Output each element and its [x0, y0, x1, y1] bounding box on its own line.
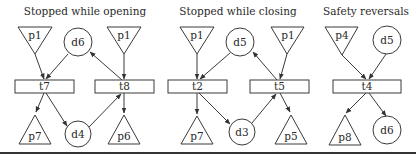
svg-text:d5: d5 [380, 34, 393, 46]
svg-text:p4: p4 [335, 29, 349, 41]
place-d5: d5 [226, 28, 254, 56]
place-p8: p8 [329, 115, 361, 145]
arc-t7-d4 [46, 93, 67, 126]
arc-t5-d5 [253, 52, 277, 80]
svg-text:p5: p5 [284, 130, 297, 142]
place-d3: d3 [229, 119, 255, 145]
place-d4: d4 [65, 121, 91, 147]
svg-text:p1: p1 [190, 29, 203, 41]
svg-text:p6: p6 [117, 130, 131, 142]
transition-t5: t5 [250, 80, 309, 93]
transition-t2: t2 [168, 80, 227, 93]
svg-text:d3: d3 [235, 126, 248, 138]
arc-t4-d6 [369, 93, 386, 116]
svg-text:p1: p1 [281, 29, 294, 41]
panel-title: Stopped while closing [179, 5, 297, 17]
svg-text:t4: t4 [362, 80, 373, 92]
arc-p1-t5 [280, 54, 287, 79]
svg-text:p7: p7 [190, 130, 203, 142]
place-p6: p6 [108, 115, 140, 144]
place-d6: d6 [373, 116, 401, 144]
arc-t2-d3 [199, 93, 230, 124]
arc-t5-p5 [280, 93, 290, 112]
arc-d5-t4 [369, 54, 386, 79]
place-p7: p7 [181, 116, 213, 144]
svg-text:d6: d6 [71, 36, 85, 48]
arc-d5-t2 [200, 53, 230, 79]
svg-text:p8: p8 [338, 131, 351, 143]
place-d6: d6 [64, 28, 92, 56]
svg-text:d5: d5 [233, 36, 246, 48]
svg-text:t5: t5 [274, 80, 285, 92]
place-p1: p1 [180, 27, 214, 54]
svg-text:p7: p7 [28, 130, 41, 142]
place-p1: p1 [18, 27, 52, 54]
transition-t7: t7 [15, 80, 74, 93]
place-p7: p7 [19, 115, 51, 144]
arc-t4-p8 [346, 93, 366, 113]
arc-p1-t7 [35, 54, 44, 79]
svg-text:d6: d6 [380, 124, 394, 136]
panel-title: Safety reversals [323, 5, 409, 17]
svg-text:t8: t8 [119, 80, 130, 92]
svg-text:t2: t2 [192, 80, 203, 92]
transition-t4: t4 [333, 80, 401, 93]
arc-d4-t8 [89, 94, 121, 127]
svg-text:p1: p1 [117, 29, 130, 41]
place-d5: d5 [373, 26, 401, 54]
place-p1: p1 [107, 27, 141, 54]
panel-stopped-while-closing: Stopped while closing p1 d5 p1 p7 d3 [168, 5, 309, 145]
svg-text:p1: p1 [28, 29, 41, 41]
arc-d3-t5 [252, 94, 276, 123]
arc-t8-d6 [90, 52, 122, 80]
svg-text:t7: t7 [39, 80, 50, 92]
transition-t8: t8 [95, 80, 154, 93]
place-p5: p5 [275, 115, 307, 144]
place-p1: p1 [271, 27, 304, 54]
svg-text:d4: d4 [71, 128, 85, 140]
arc-t7-p7 [36, 93, 44, 112]
place-p4: p4 [325, 27, 358, 55]
panel-safety-reversals: Safety reversals p4 d5 p8 d6 t4 [323, 5, 409, 145]
panel-stopped-while-opening: Stopped while opening p1 d6 p1 p7 d4 [15, 5, 154, 147]
arc-d6-t7 [46, 54, 68, 79]
panel-title: Stopped while opening [24, 5, 147, 17]
arc-p4-t4 [342, 55, 366, 79]
petri-net-diagram: Stopped while opening p1 d6 p1 p7 d4 [0, 0, 416, 160]
